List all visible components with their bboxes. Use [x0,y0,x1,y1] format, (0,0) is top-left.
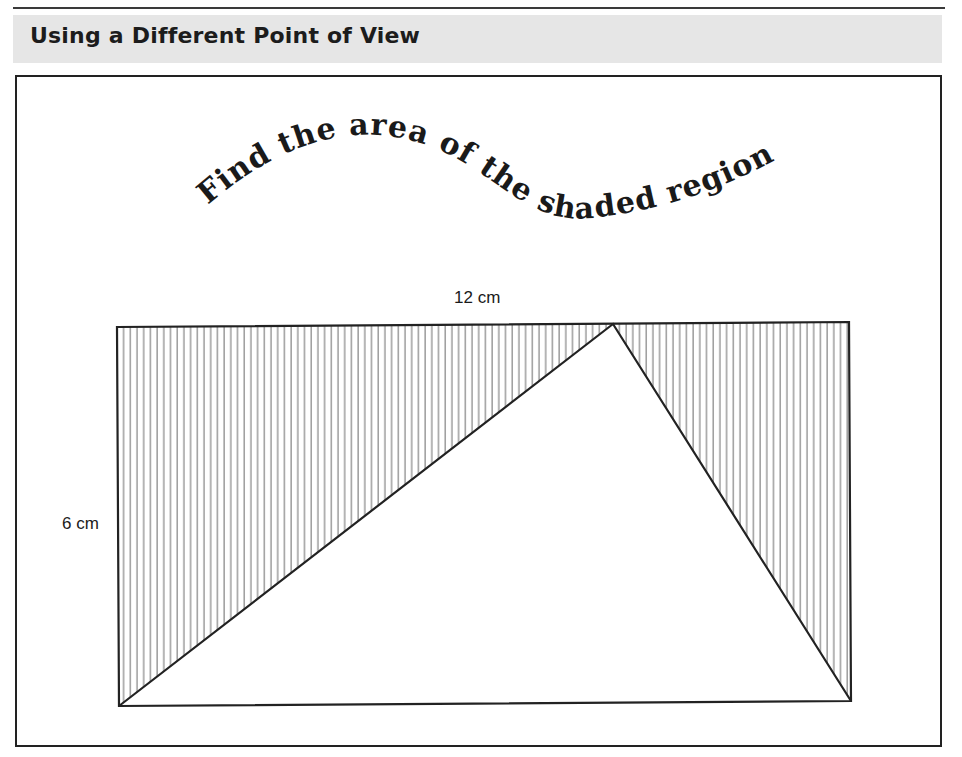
width-label: 12 cm [454,288,500,307]
height-label: 6 cm [62,514,99,533]
problem-prompt: Find the area of the shaded region: [0,0,779,226]
shaded-region-figure: Find the area of the shaded region: 12 c… [0,0,962,757]
problem-prompt-text: Find the area of the shaded region: [0,0,779,226]
